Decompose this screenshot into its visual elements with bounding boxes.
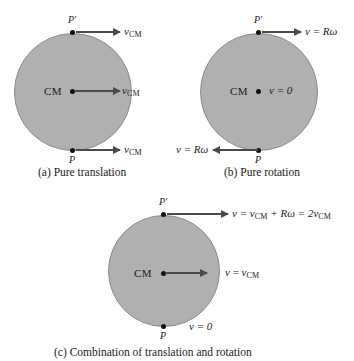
- point-p-prime-dot-b: [256, 30, 261, 35]
- center-of-mass-label-c: CM: [134, 268, 152, 279]
- caption-a: (a) Pure translation: [38, 166, 126, 178]
- point-p-prime-label-b: P′: [254, 15, 262, 25]
- velocity-label-bottom-b: v = Rω: [176, 144, 208, 155]
- velocity-label-center-a: vCM: [122, 85, 140, 98]
- velocity-equation-mid-c: + Rω = 2v: [268, 207, 319, 219]
- point-p-dot-c: [161, 324, 166, 329]
- velocity-label-top-b: v = Rω: [305, 26, 337, 37]
- velocity-label-bottom-a: vCM: [124, 144, 142, 157]
- velocity-label-bottom-c: v = 0: [189, 321, 212, 332]
- point-p-prime-label-c: P′: [159, 197, 167, 207]
- velocity-equals-center-c: =: [230, 266, 242, 278]
- rolling-motion-figure: P′ vCM CM vCM P vCM (a) Pure translation…: [0, 0, 354, 361]
- panel-c: P′ v = vCM + Rω = 2vCM CM v = vCM P v = …: [0, 185, 354, 361]
- point-p-prime-label-a: P′: [68, 15, 76, 25]
- point-p-dot-a: [70, 148, 75, 153]
- point-p-label-a: P: [69, 155, 75, 165]
- velocity-arrow-bottom-b: [213, 149, 258, 151]
- panel-b: P′ v = Rω CM v = 0 P v = Rω (b) Pure rot…: [177, 0, 354, 185]
- center-of-mass-dot-b: [256, 89, 261, 94]
- velocity-equation-top-c: v = vCM + Rω = 2vCM: [232, 208, 331, 221]
- point-p-prime-dot-c: [161, 212, 166, 217]
- point-p-label-b: P: [255, 155, 261, 165]
- velocity-arrow-top-c: [167, 213, 228, 215]
- velocity-equation-sub2-c: CM: [318, 212, 331, 221]
- center-of-mass-label-b: CM: [230, 86, 248, 97]
- velocity-arrow-bottom-a: [76, 149, 120, 151]
- velocity-arrow-center-c: [165, 272, 207, 274]
- velocity-subscript-top-a: CM: [129, 30, 142, 39]
- caption-b: (b) Pure rotation: [224, 166, 300, 178]
- center-of-mass-label-a: CM: [44, 86, 62, 97]
- velocity-subscript-center-a: CM: [127, 89, 140, 98]
- velocity-arrow-top-a: [76, 31, 120, 33]
- velocity-label-top-a: vCM: [124, 26, 142, 39]
- caption-c: (c) Combination of translation and rotat…: [54, 346, 252, 358]
- velocity-arrow-top-b: [262, 31, 301, 33]
- point-p-label-c: P: [160, 331, 166, 341]
- velocity-label-center-c: v = vCM: [225, 267, 259, 280]
- point-p-prime-dot-a: [70, 30, 75, 35]
- velocity-arrow-center-a: [74, 90, 120, 92]
- velocity-subscript-bottom-a: CM: [129, 148, 142, 157]
- velocity-equation-prefix-c: v = v: [232, 207, 255, 219]
- panel-a: P′ vCM CM vCM P vCM (a) Pure translation: [0, 0, 177, 185]
- velocity-subscript-center-c: CM: [247, 271, 260, 280]
- velocity-equation-sub1-c: CM: [255, 212, 268, 221]
- center-velocity-label-b: v = 0: [269, 85, 292, 96]
